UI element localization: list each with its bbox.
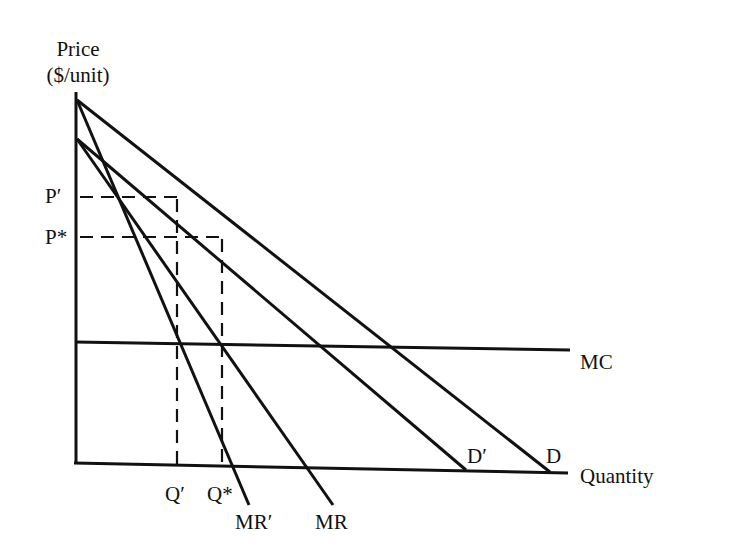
price-label-p-prime: P′ bbox=[45, 186, 61, 207]
curve-label-mr-prime: MR′ bbox=[235, 512, 272, 533]
y-axis-title-line2: ($/unit) bbox=[23, 65, 133, 86]
demand-curve-d-prime bbox=[77, 139, 466, 470]
quantity-label-q-prime: Q′ bbox=[165, 484, 185, 505]
price-label-p-star: P* bbox=[45, 227, 67, 248]
marginal-revenue-curve-mr-prime bbox=[77, 100, 249, 505]
y-axis-title-line1: Price bbox=[23, 39, 133, 60]
demand-curve-d bbox=[77, 100, 550, 472]
curve-label-mc: MC bbox=[580, 352, 613, 373]
x-axis-title: Quantity bbox=[580, 466, 654, 487]
quantity-label-q-star: Q* bbox=[207, 484, 233, 505]
curve-label-d-prime: D′ bbox=[467, 446, 487, 467]
curve-label-mr: MR bbox=[315, 512, 348, 533]
x-axis bbox=[74, 463, 568, 473]
marginal-revenue-curve-mr bbox=[77, 139, 333, 505]
curve-label-d: D bbox=[546, 446, 561, 467]
